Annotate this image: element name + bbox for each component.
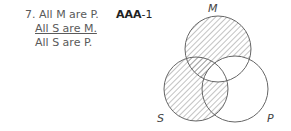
venn-diagram: M S P <box>0 0 291 131</box>
label-m: M <box>208 2 218 15</box>
label-s: S <box>157 112 164 125</box>
label-p: P <box>267 112 274 125</box>
